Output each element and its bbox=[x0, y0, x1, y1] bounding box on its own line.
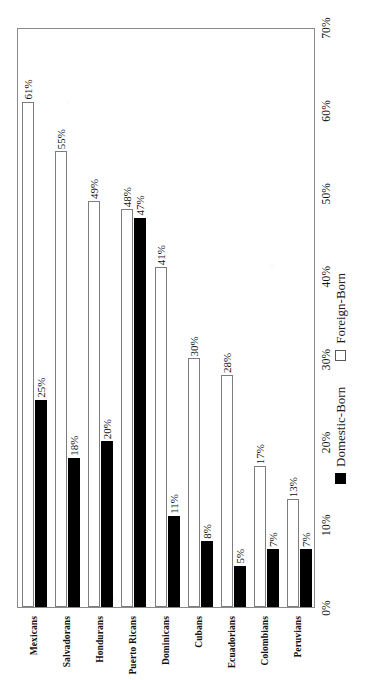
plot-area: 7%13%7%17%5%28%8%30%11%41%47%48%20%49%18… bbox=[18, 29, 314, 607]
x-axis-tick-label: 40% bbox=[320, 266, 332, 288]
bar-hondurans-domestic-born: 20% bbox=[101, 441, 113, 607]
chart-figure: 7%13%7%17%5%28%8%30%11%41%47%48%20%49%18… bbox=[0, 0, 378, 680]
bar-value-label: 41% bbox=[155, 245, 167, 265]
bar-colombians-domestic-born: 7% bbox=[267, 549, 279, 607]
legend-swatch-domestic-born-icon bbox=[335, 473, 346, 484]
bar-ecuadorians-foreign-born: 28% bbox=[221, 375, 233, 607]
bar-dominicans-domestic-born: 11% bbox=[168, 516, 180, 607]
x-axis-tick-label: 30% bbox=[320, 349, 332, 371]
bar-salvadorans-domestic-born: 18% bbox=[68, 458, 80, 607]
x-axis-tick-label: 0% bbox=[320, 600, 332, 616]
bar-value-label: 55% bbox=[55, 129, 67, 149]
bar-salvadorans-foreign-born: 55% bbox=[55, 151, 67, 607]
bar-peruvians-foreign-born: 13% bbox=[287, 499, 299, 607]
bar-cubans-foreign-born: 30% bbox=[188, 358, 200, 607]
legend-label-domestic-born: Domestic-Born bbox=[334, 387, 347, 467]
bar-hondurans-foreign-born: 49% bbox=[88, 201, 100, 607]
bar-value-label: 28% bbox=[221, 353, 233, 373]
bar-value-label: 25% bbox=[35, 378, 47, 398]
bar-peruvians-domestic-born: 7% bbox=[300, 549, 312, 607]
bar-ecuadorians-domestic-born: 5% bbox=[234, 566, 246, 607]
rotated-figure-container: 7%13%7%17%5%28%8%30%11%41%47%48%20%49%18… bbox=[0, 0, 378, 680]
bar-mexicans-foreign-born: 61% bbox=[22, 102, 34, 607]
legend-item-domestic-born: Domestic-Born bbox=[334, 387, 347, 484]
category-label-mexicans: Mexicans bbox=[29, 616, 39, 655]
bar-mexicans-domestic-born: 25% bbox=[35, 400, 47, 607]
x-axis-tick-label: 20% bbox=[320, 431, 332, 453]
bar-value-label: 47% bbox=[134, 195, 146, 215]
bar-value-label: 61% bbox=[22, 79, 34, 99]
legend-swatch-foreign-born-icon bbox=[335, 350, 346, 361]
category-label-salvadorans: Salvadorans bbox=[62, 616, 72, 667]
bar-value-label: 8% bbox=[201, 524, 213, 539]
legend-item-foreign-born: Foreign-Born bbox=[334, 273, 347, 361]
category-label-colombians: Colombians bbox=[260, 616, 270, 666]
category-label-hondurans: Hondurans bbox=[95, 616, 105, 663]
bar-colombians-foreign-born: 17% bbox=[254, 466, 266, 607]
x-axis-tick-label: 50% bbox=[320, 183, 332, 205]
bar-value-label: 5% bbox=[234, 549, 246, 564]
bar-value-label: 30% bbox=[188, 336, 200, 356]
bar-puerto-ricans-domestic-born: 47% bbox=[134, 218, 146, 607]
category-label-dominicans: Dominicans bbox=[161, 616, 171, 665]
bar-value-label: 7% bbox=[267, 532, 279, 547]
plot-frame: 7%13%7%17%5%28%8%30%11%41%47%48%20%49%18… bbox=[17, 28, 315, 608]
bar-value-label: 7% bbox=[300, 532, 312, 547]
category-axis: PeruviansColombiansEcuadoriansCubansDomi… bbox=[17, 610, 315, 680]
legend-label-foreign-born: Foreign-Born bbox=[334, 273, 347, 344]
bar-value-label: 18% bbox=[68, 436, 80, 456]
x-axis-tick-label: 70% bbox=[320, 17, 332, 39]
bar-dominicans-foreign-born: 41% bbox=[155, 267, 167, 607]
category-label-puerto-ricans: Puerto Ricans bbox=[128, 616, 138, 675]
bar-value-label: 17% bbox=[254, 444, 266, 464]
bar-value-label: 11% bbox=[168, 494, 180, 514]
chart-legend: Domestic-Born Foreign-Born bbox=[334, 273, 347, 484]
category-label-ecuadorians: Ecuadorians bbox=[227, 616, 237, 668]
bar-value-label: 48% bbox=[121, 187, 133, 207]
x-axis-tick-label: 10% bbox=[320, 514, 332, 536]
bar-puerto-ricans-foreign-born: 48% bbox=[121, 209, 133, 607]
bar-value-label: 13% bbox=[287, 477, 299, 497]
category-label-peruvians: Peruvians bbox=[293, 616, 303, 658]
category-label-cubans: Cubans bbox=[194, 616, 204, 648]
bar-value-label: 49% bbox=[88, 179, 100, 199]
bar-cubans-domestic-born: 8% bbox=[201, 541, 213, 607]
x-axis-tick-label: 60% bbox=[320, 100, 332, 122]
bar-value-label: 20% bbox=[101, 419, 113, 439]
